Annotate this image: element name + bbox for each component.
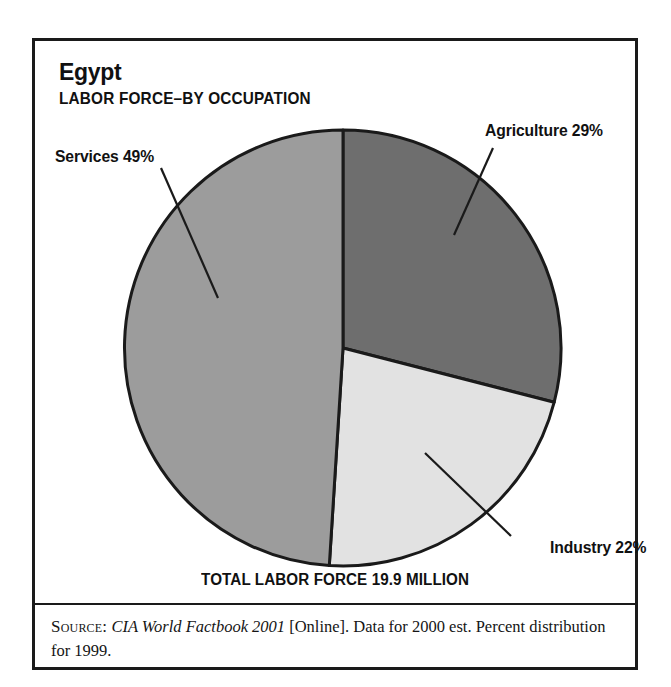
pie-label-services: Services 49%	[55, 147, 154, 166]
source-note: Source: CIA World Factbook 2001 [Online]…	[51, 615, 621, 663]
source-divider	[35, 603, 635, 605]
total-labor-force-text: TOTAL LABOR FORCE 19.9 MILLION	[201, 571, 469, 589]
chart-card: Egypt LABOR FORCE–BY OCCUPATION Services…	[32, 38, 638, 670]
pie-slice-services[interactable]	[124, 130, 343, 566]
pie-label-agriculture: Agriculture 29%	[485, 121, 603, 140]
source-label: Source:	[51, 617, 107, 636]
source-work-title: CIA World Factbook 2001	[111, 617, 285, 636]
pie-label-industry: Industry 22%	[550, 538, 646, 557]
total-labor-force-caption: TOTAL LABOR FORCE 19.9 MILLION	[35, 571, 635, 589]
